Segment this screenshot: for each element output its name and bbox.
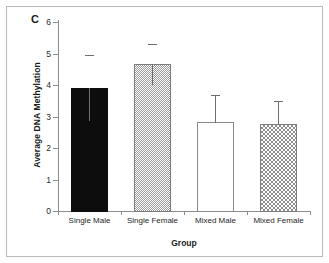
error-bar-stem-mixed-female xyxy=(278,101,279,125)
x-tick-4 xyxy=(310,211,311,215)
x-category-label-mixed-female: Mixed Female xyxy=(247,216,310,225)
bar-mixed-male xyxy=(197,122,234,212)
bar-chart: C 0 1 2 3 4 5 6 Single Male Single Femal… xyxy=(0,0,329,263)
y-tick-label-6: 6 xyxy=(29,18,51,26)
y-axis-title: Average DNA Methylation xyxy=(32,45,42,185)
y-tick-3 xyxy=(53,117,58,118)
bar-single-female xyxy=(134,64,171,212)
x-axis-title: Group xyxy=(58,238,310,248)
error-bar-cap-mixed-male xyxy=(211,95,220,96)
y-tick-6 xyxy=(53,22,58,23)
x-tick-2 xyxy=(184,211,185,215)
error-bar-stem-single-female xyxy=(152,64,153,85)
error-bar-stem-single-male xyxy=(89,88,90,121)
x-category-label-single-female: Single Female xyxy=(121,216,184,225)
bar-mixed-female xyxy=(260,124,297,212)
x-tick-1 xyxy=(121,211,122,215)
x-tick-3 xyxy=(247,211,248,215)
x-category-label-single-male: Single Male xyxy=(58,216,121,225)
y-tick-4 xyxy=(53,85,58,86)
y-axis-line xyxy=(58,20,59,212)
x-category-label-mixed-male: Mixed Male xyxy=(184,216,247,225)
y-tick-2 xyxy=(53,148,58,149)
y-tick-label-0: 0 xyxy=(29,207,51,215)
y-tick-5 xyxy=(53,54,58,55)
error-bar-stem-mixed-male xyxy=(215,95,216,123)
x-tick-0 xyxy=(58,211,59,215)
error-bar-cap-mixed-female xyxy=(274,101,283,102)
error-bar-cap-single-female xyxy=(148,44,157,45)
error-bar-cap-single-male xyxy=(85,55,94,56)
y-tick-1 xyxy=(53,180,58,181)
